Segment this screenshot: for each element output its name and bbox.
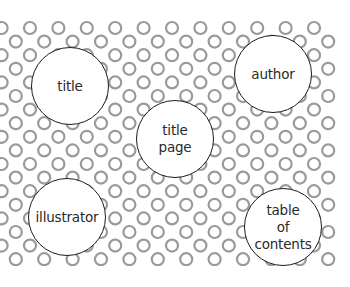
bubble-label-illustrator: illustrator: [36, 209, 99, 226]
bubble-label-title: title: [57, 78, 82, 95]
bubble-illustrator: illustrator: [28, 178, 106, 256]
bubble-table-of-contents: table of contents: [244, 188, 322, 266]
bubble-label-title-page: title page: [159, 122, 192, 156]
word-bubble-diagram: title author title page illustrator tabl…: [0, 0, 350, 287]
bubble-label-author: author: [251, 66, 294, 83]
bubble-title: title: [31, 47, 109, 125]
bubble-title-page: title page: [136, 100, 214, 178]
bubble-label-table-of-contents: table of contents: [254, 202, 311, 253]
bubble-author: author: [234, 35, 312, 113]
